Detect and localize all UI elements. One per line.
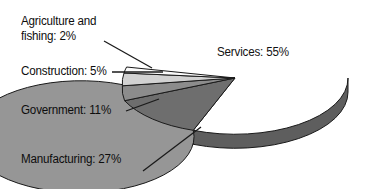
inside-label-services: Services: 55% bbox=[217, 45, 289, 60]
callout-label-agriculture-line1: Agriculture and bbox=[21, 14, 96, 28]
callout-label-manufacturing: Manufacturing: 27% bbox=[21, 152, 121, 167]
callout-label-agriculture: Agriculture andfishing: 2% bbox=[21, 14, 96, 43]
leader-line-agriculture bbox=[104, 41, 152, 68]
pie-chart-figure: Agriculture andfishing: 2% Construction:… bbox=[0, 0, 368, 189]
callout-label-agriculture-line2: fishing: 2% bbox=[21, 29, 76, 43]
callout-label-construction: Construction: 5% bbox=[21, 64, 107, 79]
callout-label-government: Government: 11% bbox=[21, 103, 111, 118]
